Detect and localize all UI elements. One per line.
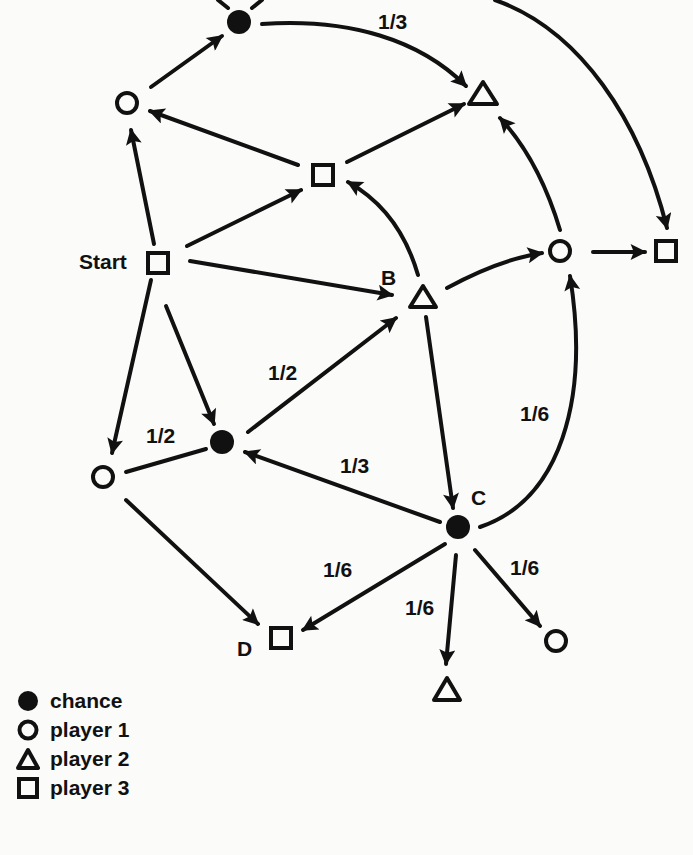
edge-start-b — [190, 261, 392, 295]
edge-start-p1ul — [131, 130, 154, 244]
edge-b-p3mid — [348, 182, 418, 275]
node-b-triangle — [410, 286, 436, 307]
node-p3-middle — [313, 165, 333, 185]
node-p2-top — [469, 82, 497, 104]
edge-p3mid-p1ul — [150, 111, 298, 165]
edge-p1ul-topchance — [151, 36, 222, 87]
edge-start-chancemid — [166, 306, 214, 424]
edge-p1ll-d — [126, 500, 258, 624]
label-d: D — [237, 637, 252, 661]
legend-item-player3: player 3 — [8, 773, 129, 802]
node-p1-bottom-right — [546, 631, 566, 651]
node-chance-mid — [210, 430, 234, 454]
legend-label: player 2 — [50, 747, 129, 771]
label-b: B — [381, 266, 396, 290]
filled-circle-icon — [8, 689, 50, 713]
edge-p1right-p2top — [500, 118, 560, 230]
edge-topchance-p3right — [495, 0, 667, 228]
node-p1-right — [550, 241, 570, 261]
legend: chance player 1 player 2 player 3 — [8, 686, 129, 802]
legend-label: chance — [50, 689, 122, 713]
node-top-chance — [227, 10, 251, 34]
edge-top-stub-right — [252, 0, 262, 8]
open-circle-icon — [8, 718, 50, 742]
edge-c-p2bottom — [446, 555, 456, 664]
legend-item-player2: player 2 — [8, 744, 129, 773]
node-p3-right — [656, 241, 676, 261]
open-square-icon — [8, 776, 50, 800]
node-d — [271, 628, 291, 648]
prob-c-p1br-1-6: 1/6 — [510, 556, 539, 580]
open-triangle-icon — [8, 747, 50, 771]
legend-item-player1: player 1 — [8, 715, 129, 744]
prob-c-p2bottom-1-6: 1/6 — [405, 596, 434, 620]
label-c: C — [471, 486, 486, 510]
edge-b-c — [426, 317, 453, 508]
edge-b-p1right — [447, 253, 542, 288]
label-start: Start — [79, 250, 127, 274]
prob-chancemid-p1-1-2: 1/2 — [146, 424, 175, 448]
node-p1-lower-left — [93, 467, 113, 487]
edge-chancemid-p1ll — [126, 449, 206, 472]
node-c-chance — [446, 515, 470, 539]
legend-item-chance: chance — [8, 686, 129, 715]
prob-top-1-3: 1/3 — [378, 10, 407, 34]
legend-label: player 1 — [50, 718, 129, 742]
node-p2-bottom — [434, 678, 460, 700]
legend-label: player 3 — [50, 776, 129, 800]
prob-c-chancemid-1-3: 1/3 — [340, 454, 369, 478]
prob-chancemid-b-1-2: 1/2 — [268, 361, 297, 385]
edge-topchance-p2top — [262, 23, 466, 86]
edge-p3mid-p2top — [347, 104, 464, 162]
prob-c-p1right-1-6: 1/6 — [520, 402, 549, 426]
edge-top-stub-left — [218, 0, 228, 8]
edge-start-p3mid — [187, 190, 301, 246]
node-start — [148, 253, 168, 273]
prob-c-d-1-6: 1/6 — [323, 558, 352, 582]
node-p1-upper-left — [117, 93, 137, 113]
